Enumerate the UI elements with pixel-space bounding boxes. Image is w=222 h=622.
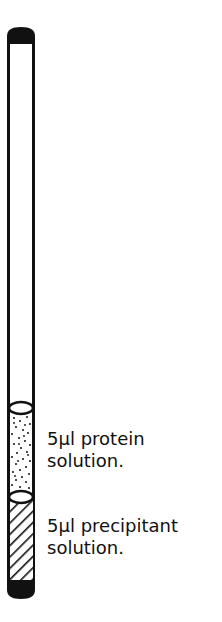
protein-solution-label: 5µl protein solution.: [47, 428, 145, 472]
top-seal: [7, 27, 35, 44]
precipitant-solution-label: 5µl precipitant solution.: [47, 515, 178, 559]
precipitant-label-line1: 5µl precipitant: [47, 515, 178, 537]
protein-label-line2: solution.: [47, 450, 145, 472]
upper-meniscus: [9, 402, 33, 414]
protein-solution-region: [10, 408, 33, 497]
precipitant-label-line2: solution.: [47, 537, 178, 559]
precipitant-solution-region: [10, 497, 33, 585]
protein-label-line1: 5µl protein: [47, 428, 145, 450]
lower-meniscus: [9, 491, 33, 503]
bottom-seal: [7, 580, 35, 599]
